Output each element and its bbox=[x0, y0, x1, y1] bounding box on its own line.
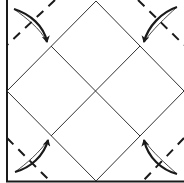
fold-arrow-bottom-left-icon bbox=[15, 140, 48, 172]
fold-arrow-top-left-icon bbox=[14, 9, 47, 42]
fold-arrow-bottom-right-icon bbox=[144, 140, 177, 174]
center-cross-crease bbox=[51, 46, 140, 136]
origami-diagram: Origami fold step: fold four corners to … bbox=[0, 0, 184, 183]
diagram-canvas bbox=[0, 0, 184, 183]
fold-arrow-top-right-icon bbox=[144, 7, 177, 42]
